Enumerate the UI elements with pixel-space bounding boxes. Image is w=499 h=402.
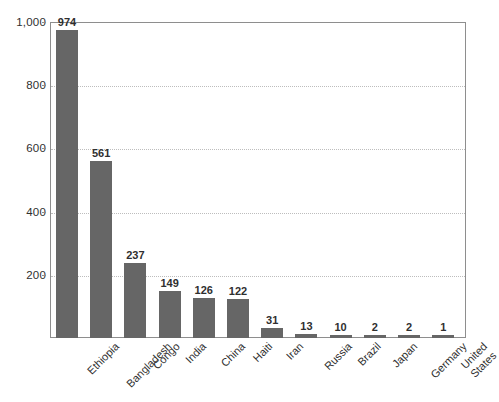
y-axis-tick-mark [42,148,46,149]
x-axis-tick-label: China [218,340,247,369]
bar[interactable]: 561 [90,22,112,338]
bar-rect [56,30,78,338]
bar-rect [227,299,249,338]
bar-rect [330,335,352,338]
x-axis-tick-label: Iran [284,340,307,363]
y-axis-tick-label: 600 [2,142,46,154]
bar-rect [124,263,146,338]
bar-rect [364,335,386,338]
bar-value-label: 561 [79,147,123,159]
y-axis-tick-label: 400 [2,206,46,218]
x-axis-tick-label: India [183,340,209,366]
x-axis: EthiopiaBangladeshCongoIndiaChinaHaitiIr… [50,340,466,402]
bars-layer: 974561237149126122311310221 [50,22,466,338]
bar[interactable]: 1 [432,22,454,338]
x-axis-tick-label: Congo [151,340,183,372]
y-axis: 2004006008001,000 [0,22,46,338]
y-axis-tick-mark [42,85,46,86]
bar[interactable]: 31 [261,22,283,338]
bar[interactable]: 2 [364,22,386,338]
bar-rect [90,161,112,338]
x-axis-tick-label: Haiti [250,340,275,365]
bar-value-label: 237 [113,249,157,261]
bar-value-label: 1 [421,321,465,333]
x-axis-tick-label: Ethiopia [85,340,122,377]
x-axis-tick-label: Japan [390,340,420,370]
bar[interactable]: 149 [159,22,181,338]
bar-rect [398,335,420,338]
y-axis-tick-label: 800 [2,79,46,91]
bar-rect [193,298,215,338]
y-axis-tick-mark [42,212,46,213]
x-axis-tick-label-line2: States [468,349,499,381]
x-axis-tick-label: Russia [322,340,355,373]
y-axis-tick-label: 200 [2,269,46,281]
bar[interactable]: 122 [227,22,249,338]
bar-rect [261,328,283,338]
bar[interactable]: 974 [56,22,78,338]
bar[interactable]: 13 [295,22,317,338]
y-axis-tick-label: 1,000 [2,16,46,28]
y-axis-tick-mark [42,275,46,276]
bar[interactable]: 126 [193,22,215,338]
bar-rect [432,335,454,338]
bar-value-label: 122 [216,285,260,297]
bar[interactable]: 10 [330,22,352,338]
bar-rect [159,291,181,338]
bar-rect [295,334,317,338]
bar-value-label: 974 [45,16,89,28]
bar[interactable]: 237 [124,22,146,338]
x-axis-tick-label: Brazil [355,340,384,369]
bar[interactable]: 2 [398,22,420,338]
